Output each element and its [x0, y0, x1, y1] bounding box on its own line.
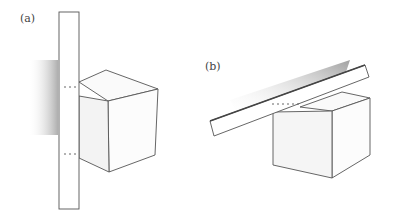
cube-left-face-a: [79, 96, 109, 172]
cube-right-face-a: [108, 89, 158, 172]
panel-b-drawing: [210, 60, 370, 178]
shadow-hatching-a: [28, 60, 58, 135]
cube-right-face-b: [332, 98, 370, 178]
sketch-illustration: [0, 0, 393, 220]
cube-left-face-b: [273, 111, 332, 178]
vertical-plank-a: [59, 12, 79, 209]
panel-a-drawing: [28, 12, 158, 209]
